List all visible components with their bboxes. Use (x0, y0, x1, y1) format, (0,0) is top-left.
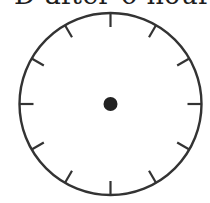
clock-face (0, 0, 210, 203)
hour-tick (65, 25, 72, 37)
hour-tick (32, 59, 44, 66)
hour-tick (149, 25, 156, 37)
hour-tick (65, 171, 72, 183)
hour-tick (177, 143, 189, 150)
hour-tick (32, 143, 44, 150)
center-dot (104, 97, 118, 111)
hour-tick (177, 59, 189, 66)
hour-tick (149, 171, 156, 183)
